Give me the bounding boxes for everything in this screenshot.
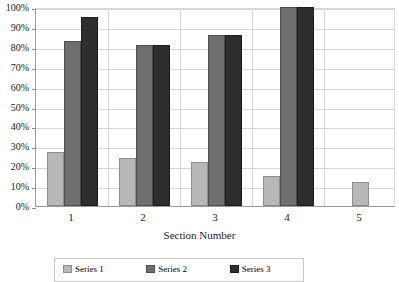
bar (64, 41, 81, 206)
x-axis-tick-label: 1 (35, 210, 107, 224)
y-axis-tick-label: 40% (11, 122, 29, 132)
y-axis-tick-label: 10% (11, 182, 29, 192)
y-axis-tick-label: 80% (11, 43, 29, 53)
legend-label: Series 3 (242, 264, 271, 274)
bar-group (36, 9, 108, 206)
bar (280, 7, 297, 206)
bar (119, 158, 136, 206)
bar-group (108, 9, 180, 206)
x-axis-tick-label: 5 (323, 210, 395, 224)
y-axis-tick-label: 30% (11, 142, 29, 152)
legend-item: Series 1 (63, 264, 104, 274)
y-axis-tick-mark (32, 208, 36, 209)
bar (191, 162, 208, 206)
bar (263, 176, 280, 206)
bar-groups (36, 9, 394, 206)
y-axis-tick-label: 50% (11, 103, 29, 113)
legend-swatch (63, 265, 72, 273)
x-axis-title: Section Number (0, 229, 399, 242)
y-axis-tick-label: 100% (6, 3, 29, 13)
bar-group (180, 9, 252, 206)
y-axis-tick-label: 70% (11, 63, 29, 73)
y-axis-tick-label: 60% (11, 83, 29, 93)
bar (225, 35, 242, 206)
x-axis-tick-label: 4 (251, 210, 323, 224)
bar-group (252, 9, 324, 206)
legend-label: Series 1 (75, 264, 104, 274)
y-axis-tick-label: 20% (11, 162, 29, 172)
legend-item: Series 2 (146, 264, 187, 274)
bar (297, 7, 314, 206)
y-axis-tick-label: 90% (11, 23, 29, 33)
bar (352, 182, 369, 206)
legend-swatch (230, 265, 239, 273)
chart-legend: Series 1Series 2Series 3 (54, 258, 304, 282)
bar-group (324, 9, 396, 206)
bar (153, 45, 170, 206)
bar (208, 35, 225, 206)
plot-area (35, 8, 395, 207)
x-axis-tick-label: 3 (179, 210, 251, 224)
legend-swatch (146, 265, 155, 273)
y-axis-tick-label: 0% (16, 202, 29, 212)
bar (47, 152, 64, 206)
bar (81, 17, 98, 206)
y-axis: 0%10%20%30%40%50%60%70%80%90%100% (0, 0, 33, 268)
x-axis-tick-labels: 12345 (35, 210, 395, 226)
legend-item: Series 3 (230, 264, 271, 274)
bar (136, 45, 153, 206)
x-axis-tick-label: 2 (107, 210, 179, 224)
legend-label: Series 2 (158, 264, 187, 274)
